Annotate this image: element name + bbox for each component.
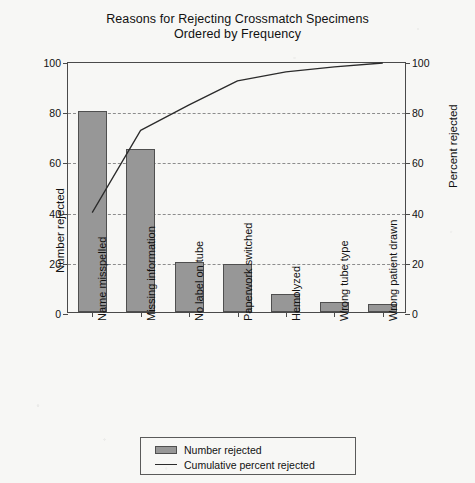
x-category-label-0: Name misspelled	[96, 237, 108, 321]
y2-tick-label-20: 20	[412, 258, 446, 270]
legend-item-number-rejected: Number rejected	[155, 442, 355, 457]
chart-title-line2: Ordered by Frequency	[0, 27, 475, 42]
chart-title: Reasons for Rejecting Crossmatch Specime…	[0, 12, 475, 42]
y2-tick-label-60: 60	[412, 157, 446, 169]
chart-legend: Number rejected Cumulative percent rejec…	[140, 437, 356, 475]
tick-right-0	[405, 314, 410, 315]
y2-tick-label-100: 100	[412, 57, 446, 69]
x-category-label-3: Paperwork switched	[242, 223, 254, 321]
cumulative-line-layer	[68, 63, 405, 312]
legend-swatch-line-icon	[155, 464, 177, 465]
legend-label-number-rejected: Number rejected	[184, 444, 262, 456]
y2-tick-label-40: 40	[412, 208, 446, 220]
x-category-label-5: Wrong tube type	[338, 240, 350, 321]
x-category-label-4: Hemolyzed	[290, 266, 302, 321]
legend-swatch-bar-icon	[155, 446, 177, 454]
y2-axis-title: Percent rejected	[447, 104, 459, 188]
legend-item-cumulative-percent: Cumulative percent rejected	[155, 457, 355, 472]
chart-title-line1: Reasons for Rejecting Crossmatch Specime…	[106, 12, 369, 26]
x-category-label-1: Missing information	[145, 226, 157, 321]
y-tick-label-80: 80	[27, 107, 61, 119]
y-tick-label-60: 60	[27, 157, 61, 169]
cumulative-percent-line	[68, 63, 407, 314]
tick-left-0	[63, 314, 68, 315]
y2-tick-label-0: 0	[412, 308, 446, 320]
y-axis-title: Number rejected	[54, 188, 66, 273]
plot-area: 020406080100020406080100 Number rejected…	[67, 62, 406, 313]
x-category-label-2: No label on tube	[193, 241, 205, 321]
chart-page: Reasons for Rejecting Crossmatch Specime…	[0, 0, 475, 483]
y-tick-label-0: 0	[27, 308, 61, 320]
x-category-label-6: Wrong patient drawn	[387, 220, 399, 321]
legend-label-cumulative-percent: Cumulative percent rejected	[184, 459, 315, 471]
y2-tick-label-80: 80	[412, 107, 446, 119]
y-tick-label-100: 100	[27, 57, 61, 69]
